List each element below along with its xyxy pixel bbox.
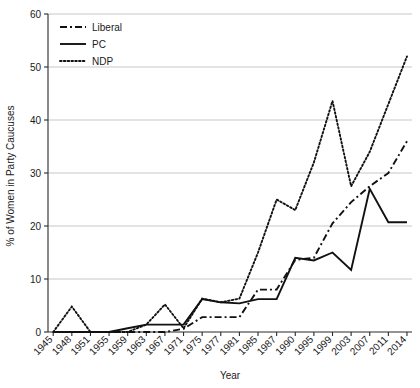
y-tick-label-20: 20 bbox=[30, 221, 42, 232]
x-tick-label-1995: 1995 bbox=[292, 333, 316, 357]
y-tick-label-40: 40 bbox=[30, 115, 42, 126]
x-tick-label-1951: 1951 bbox=[68, 333, 92, 357]
x-tick-label-2014: 2014 bbox=[385, 333, 409, 357]
x-tick-label-2003: 2003 bbox=[329, 333, 353, 357]
chart-canvas: 1945194819511955195919631967197119751977… bbox=[0, 0, 420, 388]
x-axis-title: Year bbox=[220, 370, 241, 381]
x-tick-label-1999: 1999 bbox=[310, 333, 334, 357]
y-tick-label-0: 0 bbox=[35, 327, 41, 338]
x-tick-label-2011: 2011 bbox=[367, 333, 390, 356]
x-tick-label-1975: 1975 bbox=[180, 333, 204, 357]
x-tick-label-1987: 1987 bbox=[255, 333, 279, 357]
x-tick-label-1959: 1959 bbox=[106, 333, 130, 357]
legend-label-pc: PC bbox=[92, 39, 106, 50]
legend-label-ndp: NDP bbox=[92, 56, 113, 67]
y-tick-label-60: 60 bbox=[30, 9, 42, 20]
x-tick-label-1977: 1977 bbox=[199, 333, 223, 357]
x-tick-label-1955: 1955 bbox=[87, 333, 111, 357]
x-tick-label-1981: 1981 bbox=[217, 333, 241, 357]
line-chart: 1945194819511955195919631967197119751977… bbox=[0, 0, 420, 388]
series-line-ndp bbox=[53, 56, 407, 332]
x-tick-label-1985: 1985 bbox=[236, 333, 260, 357]
x-axis-tick-labels: 1945194819511955195919631967197119751977… bbox=[31, 333, 409, 357]
y-tick-label-30: 30 bbox=[30, 168, 42, 179]
x-tick-label-1967: 1967 bbox=[143, 333, 167, 357]
chart-legend: LiberalPCNDP bbox=[60, 22, 122, 67]
y-axis-title: % of Women in Party Caucuses bbox=[5, 106, 16, 247]
x-tick-label-1971: 1971 bbox=[161, 333, 185, 357]
series-line-pc bbox=[53, 189, 407, 332]
y-tick-label-10: 10 bbox=[30, 274, 42, 285]
x-tick-label-1963: 1963 bbox=[124, 333, 148, 357]
legend-label-liberal: Liberal bbox=[92, 22, 122, 33]
x-tick-label-1990: 1990 bbox=[273, 333, 297, 357]
x-tick-label-1948: 1948 bbox=[50, 333, 74, 357]
x-tick-label-2007: 2007 bbox=[348, 333, 372, 357]
y-axis-tick-labels: 0102030405060 bbox=[30, 9, 42, 338]
y-tick-label-50: 50 bbox=[30, 62, 42, 73]
data-series-group bbox=[53, 56, 407, 332]
